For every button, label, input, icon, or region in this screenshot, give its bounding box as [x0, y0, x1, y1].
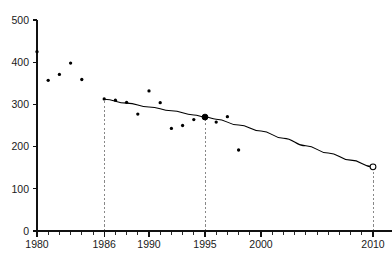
x-tick-label: 2010 — [361, 238, 385, 250]
x-tick-label: 1980 — [25, 238, 49, 250]
data-point — [159, 101, 162, 104]
data-point — [136, 112, 139, 115]
data-point — [215, 120, 218, 123]
data-point — [80, 78, 83, 81]
data-point — [125, 101, 128, 104]
y-tick-label: 500 — [11, 14, 29, 26]
marker-1995 — [202, 114, 208, 120]
scatter-chart: 0100200300400500 19801986199019952000201… — [0, 0, 392, 258]
trend-line — [104, 99, 373, 167]
data-point — [47, 79, 50, 82]
data-point — [147, 89, 150, 92]
tick-marks-group — [33, 20, 374, 237]
data-point — [35, 50, 38, 53]
y-tick-label: 0 — [23, 225, 29, 237]
trend-line-group — [104, 99, 373, 167]
data-point — [226, 115, 229, 118]
data-point — [170, 127, 173, 130]
data-point — [58, 73, 61, 76]
data-point — [69, 61, 72, 64]
data-points-group — [35, 50, 240, 152]
x-tick-labels-group: 198019861990199520002010 — [25, 238, 385, 250]
marker-2010 — [370, 164, 376, 170]
reference-lines-group — [104, 99, 373, 231]
data-point — [114, 99, 117, 102]
x-tick-label: 2000 — [249, 238, 273, 250]
x-tick-label: 1986 — [93, 238, 117, 250]
y-tick-label: 400 — [11, 56, 29, 68]
chart-container: 0100200300400500 19801986199019952000201… — [0, 0, 392, 258]
y-tick-labels-group: 0100200300400500 — [11, 14, 29, 237]
data-point — [103, 97, 106, 100]
y-tick-label: 300 — [11, 98, 29, 110]
data-point — [181, 124, 184, 127]
y-tick-label: 100 — [11, 183, 29, 195]
axes-group — [37, 20, 392, 231]
x-tick-label: 1995 — [193, 238, 217, 250]
y-tick-label: 200 — [11, 140, 29, 152]
data-point — [237, 148, 240, 151]
x-tick-label: 1990 — [137, 238, 161, 250]
data-point — [192, 118, 195, 121]
